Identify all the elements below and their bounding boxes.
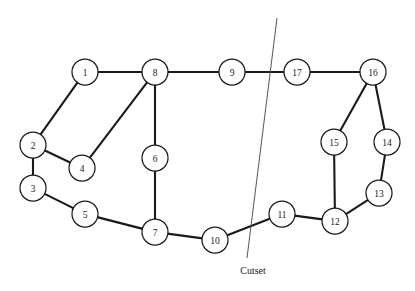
graph-edge-12-13 <box>346 200 369 215</box>
graph-node-15: 15 <box>321 129 347 155</box>
node-label-10: 10 <box>210 236 220 246</box>
graph-node-3: 3 <box>20 175 46 201</box>
node-label-5: 5 <box>83 210 88 220</box>
node-label-11: 11 <box>277 210 286 220</box>
graph-edge-3-5 <box>44 194 74 209</box>
graph-canvas: 1234567891011121314151617 Cutset <box>0 0 415 291</box>
node-label-14: 14 <box>382 138 392 148</box>
node-label-9: 9 <box>230 68 235 78</box>
graph-node-13: 13 <box>366 180 392 206</box>
annotations-layer: Cutset <box>240 265 266 276</box>
graph-edge-12-15 <box>334 154 335 208</box>
node-label-12: 12 <box>330 217 340 227</box>
graph-edge-2-4 <box>44 150 70 162</box>
graph-edge-1-2 <box>40 82 77 135</box>
graph-node-11: 11 <box>269 201 295 227</box>
graph-node-4: 4 <box>69 155 95 181</box>
graph-node-14: 14 <box>374 129 400 155</box>
graph-edge-14-16 <box>375 84 384 129</box>
node-label-7: 7 <box>153 228 158 238</box>
graph-edge-11-12 <box>294 216 322 220</box>
node-label-6: 6 <box>153 154 158 164</box>
node-label-1: 1 <box>83 68 88 78</box>
graph-edge-4-8 <box>90 82 148 158</box>
graph-node-16: 16 <box>360 59 386 85</box>
graph-edge-7-10 <box>167 234 202 239</box>
graph-node-5: 5 <box>72 201 98 227</box>
graph-node-8: 8 <box>142 59 168 85</box>
node-label-15: 15 <box>329 138 339 148</box>
graph-node-1: 1 <box>72 59 98 85</box>
node-label-8: 8 <box>153 68 158 78</box>
cutset-label: Cutset <box>240 265 266 276</box>
graph-diagram-figure: 1234567891011121314151617 Cutset <box>0 0 415 291</box>
node-label-4: 4 <box>80 164 85 174</box>
node-label-17: 17 <box>292 68 302 78</box>
graph-node-6: 6 <box>142 145 168 171</box>
nodes-layer: 1234567891011121314151617 <box>20 59 400 253</box>
graph-node-10: 10 <box>202 227 228 253</box>
graph-edge-13-14 <box>381 154 385 180</box>
graph-node-7: 7 <box>142 219 168 245</box>
graph-node-17: 17 <box>284 59 310 85</box>
node-label-3: 3 <box>31 184 36 194</box>
graph-node-2: 2 <box>20 132 46 158</box>
graph-edge-10-11 <box>227 219 271 236</box>
node-label-16: 16 <box>368 68 378 78</box>
graph-edge-15-16 <box>340 83 367 131</box>
node-label-13: 13 <box>374 189 384 199</box>
graph-node-12: 12 <box>322 208 348 234</box>
graph-edge-5-7 <box>97 217 143 229</box>
node-label-2: 2 <box>31 141 36 151</box>
graph-node-9: 9 <box>219 59 245 85</box>
